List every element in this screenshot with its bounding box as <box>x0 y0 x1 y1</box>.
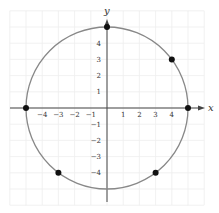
y-tick-label: 4 <box>97 40 102 48</box>
data-point <box>185 105 191 111</box>
x-tick-label: 3 <box>153 111 157 119</box>
y-tick-label: −2 <box>91 137 101 145</box>
x-tick-label: −3 <box>53 111 63 119</box>
data-point <box>23 105 29 111</box>
y-tick-label: 1 <box>97 88 101 96</box>
x-tick-label: 4 <box>170 111 175 119</box>
y-tick-label: 2 <box>97 72 101 80</box>
data-point <box>104 24 110 30</box>
x-tick-label: 2 <box>137 111 141 119</box>
y-tick-label: −3 <box>91 153 101 161</box>
circle-plot: −4−3−2−112344321−1−2−3−4 x y <box>0 0 219 213</box>
y-tick-label: 3 <box>97 56 101 64</box>
x-tick-label: 1 <box>121 111 125 119</box>
data-point <box>169 56 175 62</box>
y-axis-label: y <box>103 5 110 16</box>
y-tick-label: −4 <box>91 169 102 177</box>
x-axis-label: x <box>208 102 214 113</box>
y-tick-label: −1 <box>91 121 101 129</box>
x-tick-label: −2 <box>69 111 79 119</box>
data-point <box>55 170 61 176</box>
data-point <box>153 170 159 176</box>
x-tick-label: −4 <box>37 111 48 119</box>
x-tick-label: −1 <box>86 111 96 119</box>
